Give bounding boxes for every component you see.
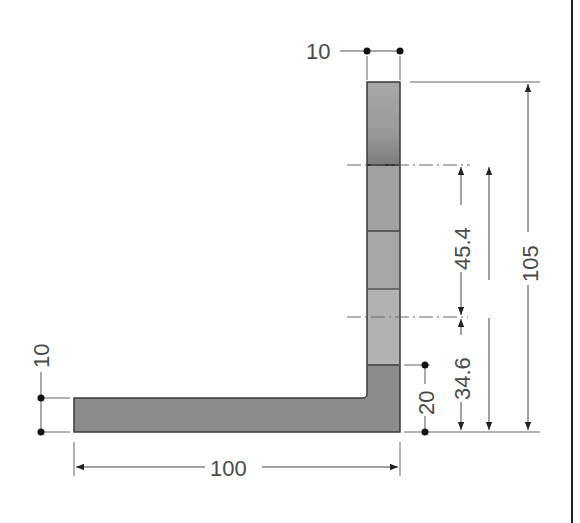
svg-text:100: 100 (210, 456, 247, 481)
svg-text:20: 20 (414, 391, 439, 415)
dim-base-block: 20 (414, 362, 439, 436)
svg-text:45.4: 45.4 (450, 227, 475, 270)
svg-text:34.6: 34.6 (450, 357, 475, 400)
svg-text:10: 10 (29, 344, 54, 368)
drawing-canvas: 10 10 100 20 45.4 34.6 (0, 0, 580, 523)
dim-vertical-leg-thickness: 10 (306, 39, 404, 64)
svg-text:10: 10 (306, 39, 330, 64)
l-profile-shape (74, 82, 400, 432)
dim-lower-segment: 34.6 (450, 319, 475, 430)
svg-text:105: 105 (518, 245, 543, 282)
dim-overall-width: 100 (76, 456, 398, 481)
dim-horizontal-leg-thickness: 10 (29, 344, 54, 436)
dim-overall-height: 105 (518, 84, 543, 430)
dim-upper-segment: 45.4 (450, 167, 475, 315)
